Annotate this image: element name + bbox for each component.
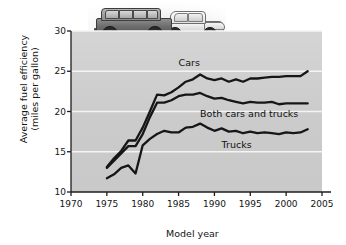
x-tick-label: 1990 xyxy=(200,199,228,209)
x-tick-label: 1970 xyxy=(57,199,85,209)
y-tick-label: 30 xyxy=(48,26,66,36)
series-annotation-both-cars-and-trucks: Both cars and trucks xyxy=(200,109,298,119)
x-tick-label: 2000 xyxy=(272,199,300,209)
x-tick-label: 1980 xyxy=(129,199,157,209)
y-tick-label: 25 xyxy=(48,66,66,76)
x-axis-title: Model year xyxy=(166,228,219,239)
y-tick-label: 20 xyxy=(48,107,66,117)
x-tick-label: 1995 xyxy=(236,199,264,209)
y-axis-title-line1: Average fuel efficiency xyxy=(18,33,29,145)
y-axis-title: Average fuel efficiency (miles per gallo… xyxy=(18,33,40,145)
y-tick-label: 10 xyxy=(48,187,66,197)
series-annotation-trucks: Trucks xyxy=(222,140,252,150)
y-tick-label: 15 xyxy=(48,147,66,157)
x-tick-label: 1975 xyxy=(93,199,121,209)
x-tick-label: 2005 xyxy=(308,199,336,209)
fuel-efficiency-figure: 1015202530 19701975198019851990199520002… xyxy=(0,0,346,245)
series-annotation-cars: Cars xyxy=(179,58,200,68)
x-tick-label: 1985 xyxy=(165,199,193,209)
y-axis-title-line2: (miles per gallon) xyxy=(29,33,40,145)
